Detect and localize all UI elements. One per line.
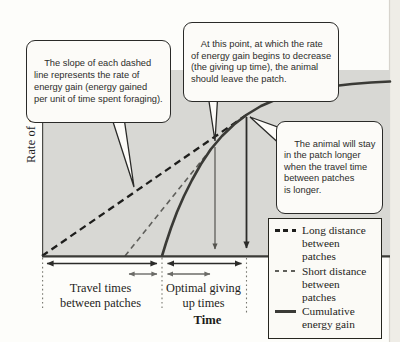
callout-stay-longer-text: The animal will stay in the patch longer… [284, 139, 375, 195]
short-distance-line-sample [275, 270, 296, 272]
legend-label: Short distance between patches [302, 265, 376, 305]
page-edge-strip [390, 0, 400, 342]
marginal-value-theorem-figure: Rate of energy gain The slope of each da… [0, 0, 400, 342]
legend: Long distance between patches Short dist… [268, 218, 382, 339]
callout-leave-patch: At this point, at which the rate of ener… [183, 22, 339, 102]
callout-slope-text: The slope of each dashed line represents… [34, 58, 163, 104]
callout-stay-longer: The animal will stay in the patch longer… [276, 121, 383, 214]
legend-label: Cumulative energy gain [302, 305, 355, 331]
x-axis-label: Time [165, 313, 250, 328]
cumulative-line-sample [275, 310, 296, 313]
legend-label: Long distance between patches [302, 224, 376, 264]
optimal-giving-up-label: Optimal giving up times [150, 281, 257, 310]
long-distance-line-sample [275, 229, 296, 232]
callout-slope: The slope of each dashed line represents… [26, 40, 171, 123]
legend-item-cumulative: Cumulative energy gain [275, 305, 376, 331]
legend-item-long-distance: Long distance between patches [275, 224, 376, 264]
legend-item-short-distance: Short distance between patches [275, 265, 376, 305]
callout-leave-patch-text: At this point, at which the rate of ener… [191, 39, 331, 83]
travel-times-label: Travel times between patches [38, 281, 163, 310]
